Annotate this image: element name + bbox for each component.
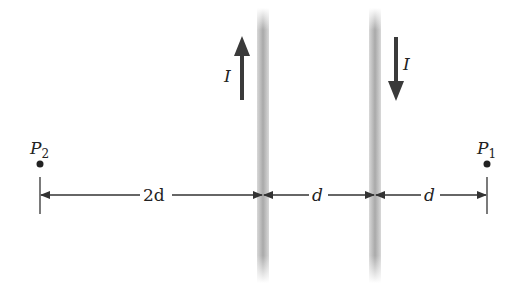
dimension-d-p1: d: [376, 185, 486, 205]
current-label-wire-2: I: [402, 54, 410, 74]
point-p1: P1: [476, 138, 496, 168]
current-arrow-up-icon: [234, 36, 250, 100]
wire-1: [257, 8, 269, 283]
dimension-d-wires: d: [264, 185, 374, 205]
wire-2: [369, 8, 381, 283]
svg-text:d: d: [424, 185, 435, 205]
svg-text:P2: P2: [29, 138, 49, 161]
dimension-2d: 2d: [41, 185, 262, 205]
point-p2: P2: [29, 138, 49, 168]
diagram-canvas: I I P2 P1 2d d d: [0, 0, 524, 287]
svg-text:2d: 2d: [143, 185, 165, 205]
current-label-wire-1: I: [223, 66, 231, 86]
svg-text:P1: P1: [476, 138, 496, 161]
svg-text:d: d: [312, 185, 323, 205]
current-arrow-down-icon: [388, 37, 404, 101]
